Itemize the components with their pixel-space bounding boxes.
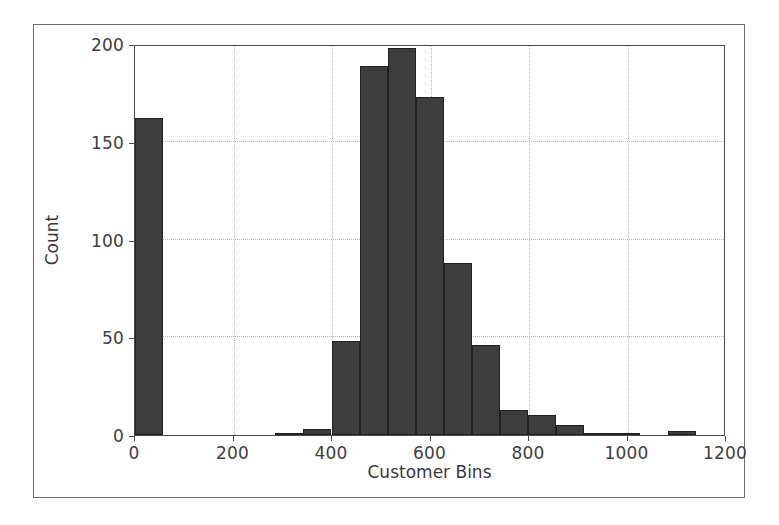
x-tick-label: 0 (128, 443, 139, 463)
x-tick-label: 1000 (604, 443, 648, 463)
gridline-vertical (529, 46, 530, 435)
histogram-bar (528, 415, 556, 435)
screenshot-root: 020040060080010001200 050100150200 Custo… (0, 0, 779, 525)
gridline-vertical (234, 46, 235, 435)
y-tick-label: 0 (54, 426, 124, 446)
y-tick-label: 50 (54, 328, 124, 348)
histogram-bar (584, 433, 612, 435)
histogram-bar (388, 48, 416, 435)
y-axis-title: Count (42, 215, 62, 266)
histogram-bar (360, 66, 388, 435)
histogram-bar (444, 263, 472, 435)
x-tick-label: 600 (413, 443, 446, 463)
x-tick-label: 1200 (703, 443, 747, 463)
x-tick-label: 800 (511, 443, 544, 463)
y-tick-label: 150 (54, 133, 124, 153)
gridline-vertical (628, 46, 629, 435)
histogram-bar (275, 433, 303, 435)
histogram-bar (303, 429, 331, 435)
histogram-bar (500, 410, 528, 435)
histogram-bar (472, 345, 500, 435)
x-tick-mark (134, 436, 135, 441)
histogram-bar (556, 425, 584, 435)
x-tick-mark (233, 436, 234, 441)
histogram-bar (332, 341, 360, 435)
histogram-bar (416, 97, 444, 435)
y-tick-mark (129, 143, 134, 144)
plot-inner-canvas (135, 46, 724, 435)
x-tick-label: 400 (314, 443, 347, 463)
y-tick-mark (129, 241, 134, 242)
y-tick-label: 200 (54, 35, 124, 55)
histogram-bar (135, 118, 163, 435)
x-tick-mark (627, 436, 628, 441)
histogram-figure: 020040060080010001200 050100150200 Custo… (0, 0, 779, 525)
y-tick-mark (129, 436, 134, 437)
x-tick-mark (430, 436, 431, 441)
x-tick-mark (725, 436, 726, 441)
histogram-bar (668, 431, 696, 435)
x-tick-mark (528, 436, 529, 441)
plot-axes-box (134, 45, 725, 436)
y-tick-mark (129, 338, 134, 339)
y-tick-mark (129, 45, 134, 46)
x-tick-label: 200 (216, 443, 249, 463)
histogram-bar (612, 433, 640, 435)
y-tick-label: 100 (54, 231, 124, 251)
x-axis-title: Customer Bins (134, 462, 725, 482)
x-tick-mark (331, 436, 332, 441)
